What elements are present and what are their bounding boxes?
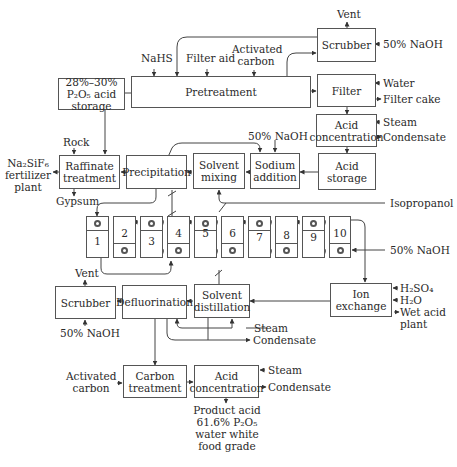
scrubber-top-box: Scrubber xyxy=(317,28,376,62)
h2o-label: H₂O xyxy=(400,294,422,306)
defluorination-box: Defluorination xyxy=(122,285,187,319)
scrubber-bottom-box: Scrubber xyxy=(55,286,116,319)
carbon-treatment-box: Carbon treatment xyxy=(123,365,187,398)
filter-aid-label: Filter aid xyxy=(186,52,235,64)
acid-storage-label: Acid storage xyxy=(319,160,375,184)
solvent-mixing-box: Solvent mixing xyxy=(193,153,245,189)
precipitation-label: Precipitation xyxy=(122,166,191,178)
steam-top-label: Steam xyxy=(383,116,417,128)
acid-concentration-top-label: Acid concentration xyxy=(310,119,384,143)
solvent-distillation-label: Solvent distillation xyxy=(194,289,251,313)
naoh-sodium-label: 50% NaOH xyxy=(248,130,308,142)
column-5: 5 xyxy=(194,216,217,258)
pump-icon xyxy=(249,217,270,231)
condensate-top-label: Condensate xyxy=(383,131,446,143)
precipitation-box: Precipitation xyxy=(126,155,187,189)
wet-acid-plant-label: Wet acid plant xyxy=(400,306,448,330)
pretreatment-box: Pretreatment xyxy=(131,76,311,108)
naoh-top-label: 50% NaOH xyxy=(383,38,443,50)
column-4: 4 xyxy=(167,216,190,258)
scrubber-bottom-label: Scrubber xyxy=(61,297,111,309)
pump-icon xyxy=(330,243,350,257)
pump-icon xyxy=(222,243,243,257)
raffinate-treatment-box: Raffinate treatment xyxy=(59,155,120,189)
nahs-label: NaHS xyxy=(141,52,173,64)
naoh-columns-label: 50% NaOH xyxy=(390,244,450,256)
filter-box: Filter xyxy=(317,74,376,107)
carbon-treatment-label: Carbon treatment xyxy=(124,370,186,394)
solvent-distillation-box: Solvent distillation xyxy=(194,284,250,318)
pretreatment-label: Pretreatment xyxy=(185,86,256,98)
acid-storage-box: Acid storage xyxy=(318,153,376,190)
vent-bottom-label: Vent xyxy=(75,267,99,279)
column-10: 10 xyxy=(329,216,351,258)
product-acid-label: Product acid 61.6% P₂O₅ water white food… xyxy=(192,404,262,452)
pump-icon xyxy=(141,217,162,231)
ion-exchange-label: Ion exchange xyxy=(331,288,391,312)
rock-label: Rock xyxy=(63,136,89,148)
acid-concentration-top-box: Acid concentration xyxy=(316,114,377,147)
scrubber-top-label: Scrubber xyxy=(322,39,372,51)
sodium-addition-box: Sodium addition xyxy=(250,153,300,189)
raffinate-treatment-label: Raffinate treatment xyxy=(60,160,119,184)
isopropanol-label: Isopropanol xyxy=(390,197,453,209)
condensate-bottom-label: Condensate xyxy=(268,381,331,393)
sodium-addition-label: Sodium addition xyxy=(251,159,299,183)
activated-carbon-bottom-label: Activated carbon xyxy=(66,370,116,394)
acid-concentration-bottom-box: Acid concentration xyxy=(194,365,259,398)
acid-concentration-bottom-label: Acid concentration xyxy=(190,370,264,394)
column-8: 8 xyxy=(275,216,298,258)
column-7: 7 xyxy=(248,216,271,258)
pump-icon xyxy=(87,217,108,231)
column-6: 6 xyxy=(221,216,244,258)
column-9: 9 xyxy=(302,216,325,258)
column-2: 2 xyxy=(113,216,136,258)
feed-acid-storage-box: 28%–30% P₂O₅ acid storage xyxy=(58,78,125,110)
gypsum-label: Gypsum xyxy=(56,195,99,207)
solvent-mixing-label: Solvent mixing xyxy=(194,159,244,183)
ion-exchange-box: Ion exchange xyxy=(330,283,392,317)
pump-icon xyxy=(276,243,297,257)
column-1: 1 xyxy=(86,216,109,258)
pump-icon xyxy=(114,243,135,257)
water-label: Water xyxy=(383,77,415,89)
condensate-mid-label: Condensate xyxy=(253,334,316,346)
pump-icon xyxy=(168,243,189,257)
feed-acid-storage-label: 28%–30% P₂O₅ acid storage xyxy=(59,76,124,112)
filter-label: Filter xyxy=(332,85,361,97)
column-3: 3 xyxy=(140,216,163,258)
steam-bottom-label: Steam xyxy=(268,364,302,376)
naoh-bottom-label: 50% NaOH xyxy=(60,327,120,339)
defluorination-label: Defluorination xyxy=(116,296,193,308)
pump-icon xyxy=(303,217,324,231)
na2sif6-label: Na₂SiF₆ fertilizer plant xyxy=(4,157,52,193)
steam-mid-label: Steam xyxy=(254,322,288,334)
activated-carbon-top-label: Activated carbon xyxy=(232,43,280,67)
vent-top-label: Vent xyxy=(337,8,361,20)
filter-cake-label: Filter cake xyxy=(383,93,441,105)
h2so4-label: H₂SO₄ xyxy=(400,282,433,294)
